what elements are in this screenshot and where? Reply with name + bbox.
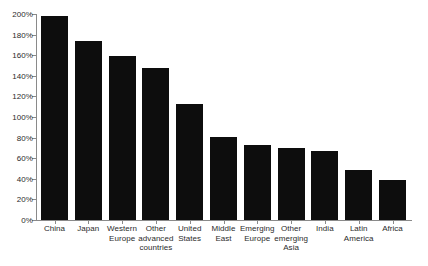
bar — [345, 170, 372, 220]
bar — [244, 145, 271, 220]
y-axis-tick-label: 80% — [17, 133, 33, 142]
bar — [109, 56, 136, 220]
x-axis-label-line: Africa — [372, 224, 414, 234]
y-axis-tick-label: 100% — [12, 113, 33, 122]
x-axis-labels: ChinaJapanWesternEuropeOtheradvancedcoun… — [36, 224, 412, 266]
bar — [210, 137, 237, 220]
bar — [142, 68, 169, 220]
bar — [311, 151, 338, 220]
y-axis-tick-label: 20% — [17, 195, 33, 204]
y-axis-tick-label: 40% — [17, 174, 33, 183]
bar — [176, 104, 203, 220]
bar-chart: 200%180%160%140%120%100%80%60%40%20%0% C… — [0, 0, 428, 266]
plot-area: 200%180%160%140%120%100%80%60%40%20%0% — [36, 10, 412, 220]
bar — [379, 180, 406, 220]
bar — [278, 148, 305, 220]
bar — [75, 41, 102, 220]
x-axis-label-line: countries — [135, 243, 177, 253]
y-axis-tick-label: 60% — [17, 154, 33, 163]
y-axis-tick-label: 200% — [12, 10, 33, 19]
y-axis-tick-label: 180% — [12, 30, 33, 39]
y-axis-tick-label: 120% — [12, 92, 33, 101]
y-axis-line — [36, 14, 37, 220]
y-axis-tick-label: 140% — [12, 71, 33, 80]
x-axis-label-line: America — [338, 234, 380, 244]
x-axis-label-line: emerging — [270, 234, 312, 244]
x-axis-label: Africa — [372, 224, 414, 234]
x-axis-label-line: Asia — [270, 243, 312, 253]
y-axis-tick-label: 160% — [12, 51, 33, 60]
y-axis-tick-label: 0% — [21, 216, 33, 225]
bar — [41, 16, 68, 220]
